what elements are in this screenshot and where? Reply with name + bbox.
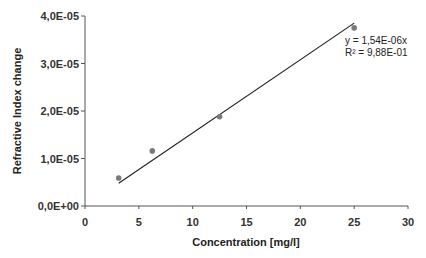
data-point	[116, 175, 122, 181]
data-point	[217, 114, 223, 120]
data-point	[351, 25, 357, 31]
y-tick-label: 1,0E-05	[40, 153, 79, 165]
trendline	[119, 23, 355, 183]
y-tick-label: 0,0E+00	[38, 200, 79, 212]
y-tick-label: 4,0E-05	[40, 10, 79, 22]
x-axis-title: Concentration [mg/l]	[192, 236, 300, 248]
data-point	[149, 148, 155, 154]
chart: Refractive Index change 0,0E+001,0E-052,…	[0, 0, 426, 258]
trendline-r-squared: R² = 9,88E-01	[345, 47, 408, 58]
x-tick-label: 20	[294, 216, 306, 228]
y-axis-title: Refractive Index change	[11, 48, 23, 175]
y-axis: 0,0E+001,0E-052,0E-053,0E-054,0E-05	[38, 10, 85, 212]
x-tick-label: 5	[136, 216, 142, 228]
x-tick-label: 25	[348, 216, 360, 228]
x-tick-label: 15	[240, 216, 252, 228]
x-tick-label: 0	[82, 216, 88, 228]
x-axis: 051015202530	[82, 206, 414, 228]
x-tick-label: 10	[187, 216, 199, 228]
x-tick-label: 30	[402, 216, 414, 228]
y-tick-label: 3,0E-05	[40, 58, 79, 70]
trendline-equation: y = 1,54E-06x	[345, 35, 407, 46]
y-tick-label: 2,0E-05	[40, 105, 79, 117]
